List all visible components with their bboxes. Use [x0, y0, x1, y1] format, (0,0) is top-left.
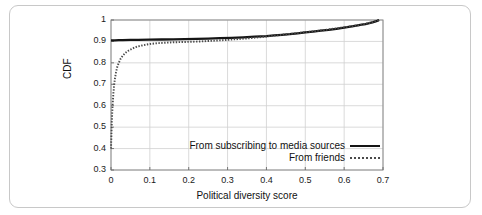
- y-tick-label: 0.5: [75, 122, 106, 131]
- y-tick-label: 0.6: [75, 101, 106, 110]
- y-tick-label: 0.4: [75, 144, 106, 153]
- x-tick-label: 0: [96, 176, 126, 185]
- legend-label-media-sources: From subscribing to media sources: [189, 140, 345, 151]
- x-tick-label: 0.6: [329, 176, 359, 185]
- y-axis-title: CDF: [62, 58, 73, 79]
- x-tick-label: 0.2: [174, 176, 204, 185]
- legend-line-sample-solid: [350, 142, 380, 150]
- x-tick-label: 0.7: [368, 176, 398, 185]
- y-tick-label: 0.3: [75, 165, 106, 174]
- legend-item-media-sources: From subscribing to media sources: [155, 140, 380, 151]
- y-tick-label: 0.7: [75, 79, 106, 88]
- series-line-media-sources: [111, 20, 379, 40]
- cdf-chart: 0.30.40.50.60.70.80.91 00.10.20.30.40.50…: [0, 0, 482, 215]
- x-tick-label: 0.5: [290, 176, 320, 185]
- legend-line-sample-dotted: [350, 154, 380, 162]
- y-tick-label: 0.8: [75, 58, 106, 67]
- y-tick-label: 1: [75, 15, 106, 24]
- x-tick-label: 0.3: [213, 176, 243, 185]
- x-axis-title: Political diversity score: [111, 190, 383, 201]
- x-tick-label: 0.4: [251, 176, 281, 185]
- x-tick-label: 0.1: [135, 176, 165, 185]
- legend-item-friends: From friends: [155, 152, 380, 163]
- y-tick-label: 0.9: [75, 36, 106, 45]
- legend-label-friends: From friends: [289, 152, 345, 163]
